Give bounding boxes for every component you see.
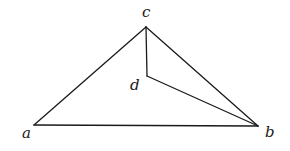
vertex-label-a: a [22,124,31,142]
edge-db [147,76,258,126]
edge-cd [146,27,147,76]
vertex-label-c: c [142,3,151,21]
vertex-label-d: d [130,76,140,94]
vertex-label-b: b [265,123,275,141]
edge-ab [34,125,258,126]
triangle-diagram: abcd [0,0,290,151]
diagram-canvas: abcd [0,0,290,151]
labels-layer: abcd [22,3,275,142]
edge-cb [146,27,258,126]
edges-layer [34,27,258,126]
